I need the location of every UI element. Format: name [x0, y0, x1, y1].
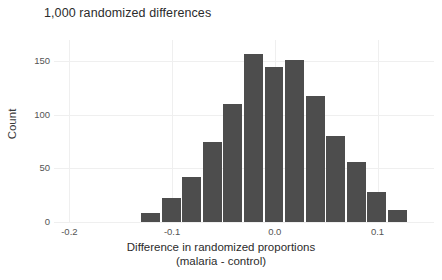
y-axis-tick-label: 50 [24, 163, 50, 173]
gridline-horizontal [54, 222, 434, 223]
x-axis-tick-labels: -0.2-0.10.00.1 [54, 226, 434, 240]
histogram-bar [203, 142, 222, 222]
histogram-bar [223, 104, 242, 222]
y-axis-tick-labels: 050100150 [20, 40, 50, 222]
x-axis-title-line1: Difference in randomized proportions [0, 240, 442, 254]
histogram-bar [347, 162, 366, 222]
histogram-bar [367, 192, 386, 222]
histogram-chart: 1,000 randomized differences Count 05010… [0, 0, 442, 280]
y-axis-tick-label: 0 [24, 217, 50, 227]
histogram-bar [141, 213, 160, 222]
histogram-bar [265, 67, 284, 222]
y-axis-tick-label: 100 [24, 110, 50, 120]
y-axis-title: Count [6, 94, 18, 154]
x-axis-tick-label: -0.2 [49, 226, 89, 237]
x-axis-tick-label: 0.0 [255, 226, 295, 237]
x-axis-tick-label: -0.1 [152, 226, 192, 237]
chart-title: 1,000 randomized differences [44, 6, 211, 20]
x-axis-title-line2: (malaria - control) [0, 254, 442, 268]
histogram-bar [388, 210, 407, 222]
x-axis-tick-label: 0.1 [358, 226, 398, 237]
gridline-vertical [69, 40, 70, 222]
histogram-bar [285, 60, 304, 222]
histogram-bar [306, 96, 325, 222]
histogram-bar [244, 54, 263, 222]
histogram-bar [162, 198, 181, 222]
gridline-vertical [172, 40, 173, 222]
histogram-bar [182, 177, 201, 222]
plot-panel [54, 40, 434, 222]
y-axis-tick-label: 150 [24, 56, 50, 66]
x-axis-title: Difference in randomized proportions (ma… [0, 240, 442, 268]
histogram-bar [326, 136, 345, 222]
